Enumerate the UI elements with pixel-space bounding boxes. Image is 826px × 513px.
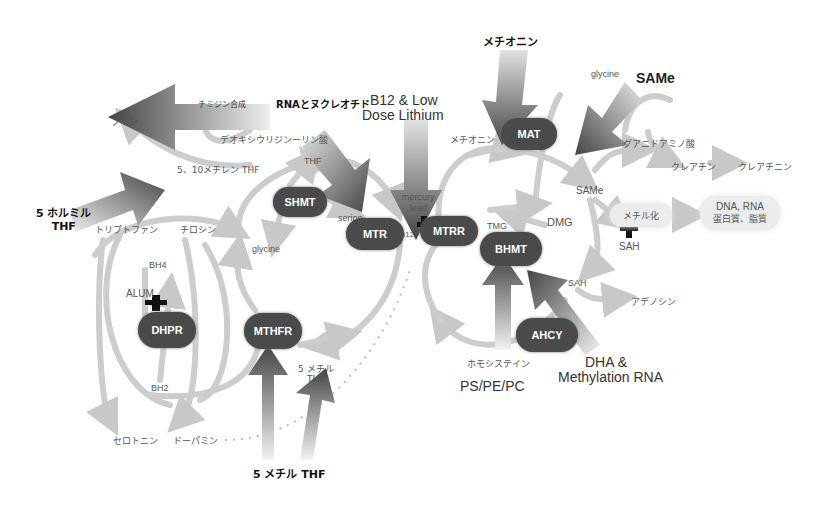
label-glycine-left: glycine xyxy=(252,244,280,254)
enzyme-mat[interactable]: MAT xyxy=(501,118,557,150)
label-mercury: mercury xyxy=(402,192,435,202)
label-adenosine: アデノシン xyxy=(631,297,676,307)
label-methylene-thf: 5、10メチレン THF xyxy=(177,165,259,175)
label-creatine: クレアチン xyxy=(671,162,716,172)
label-guanidinoacetate: グアニドアミノ酸 xyxy=(623,139,695,149)
label-serotonin: セロトニン xyxy=(113,436,158,446)
label-tmg: TMG xyxy=(487,221,507,231)
label-tryptophan: トリプトファン xyxy=(95,225,158,235)
label-methyl-thf-small: 5 メチル THF xyxy=(298,364,334,385)
methylation-label: メチル化 xyxy=(623,209,659,222)
enzyme-mtrr[interactable]: MTRR xyxy=(420,216,478,246)
label-thf: THF xyxy=(304,156,322,166)
input-ps-pe-pc: PS/PE/PC xyxy=(460,378,525,394)
label-glycine-right: glycine xyxy=(591,69,619,79)
input-b12-line2: Dose Lithium xyxy=(362,107,444,123)
input-b12-line1: B12 & Low xyxy=(370,92,438,108)
label-dopamine: ドーパミン xyxy=(173,436,218,446)
enzyme-ahcy[interactable]: AHCY xyxy=(516,318,578,352)
label-alum: ALUM xyxy=(126,288,154,300)
label-tyrosine: チロシン xyxy=(180,225,216,235)
label-lead: lead xyxy=(410,203,427,213)
label-purine: プリン xyxy=(111,117,138,127)
input-methionine: メチオニン xyxy=(483,37,538,50)
input-methyl-thf: 5 メチル THF xyxy=(253,469,326,482)
label-homocysteine: ホモシステイン xyxy=(467,359,530,369)
enzyme-mthfr[interactable]: MTHFR xyxy=(244,313,302,349)
label-methionine-small: メチオニン xyxy=(450,135,495,145)
label-bh2: BH2 xyxy=(151,383,169,393)
input-dha-line2: Methylation RNA xyxy=(558,369,663,385)
label-same-small: SAMe xyxy=(576,185,603,197)
dna-rna-label: DNA, RNA xyxy=(716,201,764,212)
enzyme-bhmt[interactable]: BHMT xyxy=(480,232,542,266)
methylation-node: メチル化 xyxy=(610,203,672,227)
label-serine: serine xyxy=(338,213,363,223)
label-dmg: DMG xyxy=(547,216,573,229)
label-b12-small: B12 xyxy=(400,230,414,239)
label-thymidine-synthesis: チミジン合成 xyxy=(198,100,246,109)
input-dha-line1: DHA & xyxy=(585,354,627,370)
protein-lipid-label: 蛋白質、脂質 xyxy=(713,212,767,225)
enzyme-shmt[interactable]: SHMT xyxy=(273,187,327,217)
input-rna-nucleotides: RNAとヌクレオチド xyxy=(276,99,370,111)
input-formyl-thf: 5 ホルミル THF xyxy=(36,208,91,233)
label-bh4: BH4 xyxy=(149,260,167,270)
label-creatinine: クレアチニン xyxy=(738,162,792,172)
label-deoxyuridine: デオキシウリジンーリン酸 xyxy=(220,135,328,145)
label-sah-inhibitor: SAH xyxy=(619,241,640,253)
enzyme-dhpr[interactable]: DHPR xyxy=(138,312,196,348)
dna-rna-node: DNA, RNA 蛋白質、脂質 xyxy=(700,196,780,230)
input-same: SAMe xyxy=(636,70,675,86)
label-sah: SAH xyxy=(568,278,587,288)
